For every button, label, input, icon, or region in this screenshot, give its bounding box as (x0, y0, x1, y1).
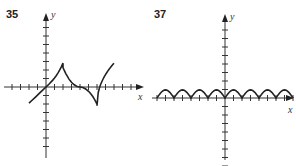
x-axis-label: x (137, 91, 143, 102)
graph-35-plot: x y (0, 0, 148, 166)
x-axis-label: x (287, 104, 293, 115)
graph-35: 35 x y (0, 0, 148, 166)
y-axis-label: y (229, 11, 235, 22)
graph-37-plot: x y (148, 0, 296, 166)
y-axis-label: y (50, 9, 56, 20)
graph-37: 37 x y (148, 0, 296, 166)
